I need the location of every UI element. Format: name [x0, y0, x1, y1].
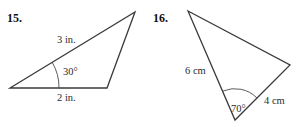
problem-16: 16. 6 cm 70° 4 cm [153, 11, 290, 120]
problem-15: 15. 3 in. 30° 2 in. [7, 11, 135, 103]
problem-number: 16. [153, 11, 168, 25]
side-label-4cm: 4 cm [264, 95, 285, 106]
angle-arc-70 [223, 89, 257, 98]
side-label-3in: 3 in. [57, 34, 76, 45]
angle-label-30: 30° [63, 66, 78, 77]
angle-arc-30 [52, 62, 59, 88]
side-label-2in: 2 in. [57, 92, 76, 103]
angle-label-70: 70° [231, 103, 246, 114]
problem-number: 15. [7, 11, 22, 25]
diagram-canvas: 15. 3 in. 30° 2 in. 16. 6 cm 70° 4 cm [0, 0, 300, 127]
side-label-6cm: 6 cm [185, 65, 206, 76]
